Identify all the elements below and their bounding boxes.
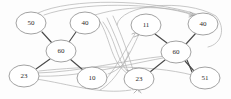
node-40-right[interactable]: 40 — [188, 13, 218, 35]
node-11[interactable]: 11 — [131, 14, 161, 36]
node-60-left[interactable]: 60 — [46, 40, 76, 62]
graph-svg: 50 40 60 23 10 11 — [0, 0, 231, 99]
node-group: 50 40 60 23 10 11 — [9, 12, 220, 90]
node-50-label: 50 — [28, 19, 36, 27]
curved-edge-2 — [44, 5, 193, 15]
node-51-label: 51 — [202, 74, 210, 82]
node-60-right[interactable]: 60 — [161, 41, 191, 63]
node-51[interactable]: 51 — [190, 67, 220, 89]
node-11-label: 11 — [143, 21, 150, 29]
node-23-left-label: 23 — [21, 72, 29, 80]
node-60-right-label: 60 — [173, 48, 181, 56]
curved-edge-1 — [38, 2, 196, 14]
node-23-left[interactable]: 23 — [9, 65, 39, 87]
node-40-left[interactable]: 40 — [70, 12, 100, 34]
solid-edge-51-60r-b — [185, 61, 194, 71]
node-50[interactable]: 50 — [16, 12, 46, 34]
solid-edge-40r-60r — [186, 33, 196, 44]
node-10-label: 10 — [89, 74, 97, 82]
node-23-right[interactable]: 23 — [124, 68, 154, 90]
solid-edge-40-60 — [69, 32, 76, 42]
solid-edge-11-60r — [155, 34, 167, 43]
node-10[interactable]: 10 — [77, 67, 107, 89]
solid-edge-50-60 — [42, 32, 52, 43]
node-40-left-label: 40 — [82, 19, 90, 27]
node-40-right-label: 40 — [200, 20, 208, 28]
solid-edge-23r-60r — [150, 60, 165, 72]
node-60-left-label: 60 — [58, 47, 66, 55]
diagram-canvas: 50 40 60 23 10 11 — [0, 0, 231, 99]
node-23-right-label: 23 — [136, 75, 144, 83]
solid-edge-23-60 — [36, 59, 50, 69]
